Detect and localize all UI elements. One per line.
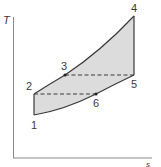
point-4-label: 4 (131, 2, 137, 14)
point-5-label: 5 (131, 78, 137, 90)
ts-diagram: T s 1 2 3 4 5 6 (0, 0, 161, 167)
point-3-marker (63, 73, 66, 76)
point-2-label: 2 (26, 80, 32, 92)
point-3-label: 3 (61, 60, 67, 72)
y-axis-label: T (3, 14, 11, 26)
point-6-marker (94, 92, 97, 95)
point-6-label: 6 (93, 97, 99, 109)
point-1-label: 1 (31, 119, 37, 131)
x-axis-label: s (146, 160, 150, 167)
